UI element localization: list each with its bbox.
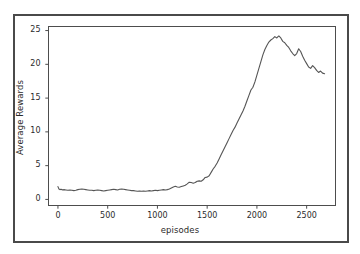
y-tick-label: 5 — [19, 160, 41, 169]
series-line — [58, 36, 325, 191]
x-tick-label: 1500 — [187, 211, 227, 220]
x-tick-label: 1000 — [137, 211, 177, 220]
y-tick-label: 25 — [19, 25, 41, 34]
y-axis-label: Average Rewards — [15, 80, 25, 155]
x-axis-label: episodes — [0, 225, 360, 235]
chart-data-series — [58, 36, 325, 191]
x-tick-label: 2000 — [237, 211, 277, 220]
x-tick-label: 500 — [88, 211, 128, 220]
y-tick-label: 15 — [19, 93, 41, 102]
x-tick-label: 0 — [38, 211, 78, 220]
y-tick-label: 0 — [19, 194, 41, 203]
x-tick-label: 2500 — [287, 211, 327, 220]
chart-plot-area: Average Rewards episodes 0510152025 0500… — [0, 0, 360, 254]
y-tick-label: 10 — [19, 126, 41, 135]
y-tick-label: 20 — [19, 59, 41, 68]
chart-tick-marks — [45, 31, 306, 209]
figure-root: Average Rewards episodes 0510152025 0500… — [0, 0, 360, 254]
